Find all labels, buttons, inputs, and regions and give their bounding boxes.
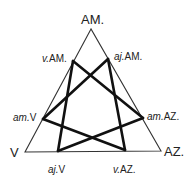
label-aj-am: aj.AM. <box>114 51 142 62</box>
triangle-diagram: AM. V AZ. v.AM. aj.AM. am.V am.AZ. aj.V … <box>0 0 192 185</box>
label-top-vertex: AM. <box>81 12 104 27</box>
edge-ajam-amv <box>43 59 108 119</box>
label-v-am-text: AM. <box>49 53 67 64</box>
inner-star <box>43 59 143 151</box>
edge-vam-ajv <box>58 61 73 151</box>
edge-amaz-ajv <box>58 118 143 151</box>
label-am-az: am.AZ. <box>147 111 179 122</box>
label-left-vertex: V <box>10 145 19 160</box>
edge-amv-vaz <box>43 119 125 150</box>
outer-triangle <box>25 29 161 152</box>
label-v-am: v.AM. <box>42 53 67 64</box>
label-right-vertex: AZ. <box>164 144 184 159</box>
label-am-v: am.V <box>13 112 37 123</box>
edge-vam-amaz <box>73 61 143 118</box>
label-v-az: v.AZ. <box>113 164 136 175</box>
label-aj-v: aj.V <box>48 164 66 175</box>
